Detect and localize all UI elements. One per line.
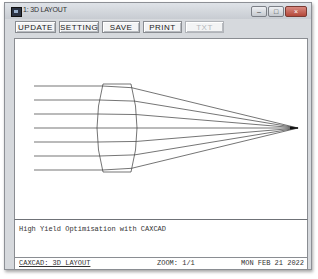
update-button[interactable]: UPDATE <box>15 21 56 33</box>
toolbar: UPDATE SETTING SAVE PRINT TXT <box>15 21 224 35</box>
status-zoom: ZOOM: 1/1 <box>157 258 195 269</box>
maximize-button[interactable]: □ <box>268 6 284 17</box>
layout-canvas[interactable] <box>14 38 308 220</box>
save-button[interactable]: SAVE <box>102 21 140 33</box>
status-view: CAXCAD: 3D LAYOUT <box>19 258 90 269</box>
close-icon: × <box>294 8 298 15</box>
print-button[interactable]: PRINT <box>143 21 182 33</box>
app-icon <box>11 7 22 17</box>
message-area: High Yield Optimisation with CAXCAD <box>14 219 308 258</box>
txt-button[interactable]: TXT <box>185 21 224 33</box>
close-button[interactable]: × <box>285 6 307 17</box>
app-window: 1: 3D LAYOUT – □ × UPDATE SETTING SAVE P… <box>4 2 312 270</box>
minimize-icon: – <box>257 8 261 15</box>
setting-button[interactable]: SETTING <box>59 21 99 33</box>
minimize-button[interactable]: – <box>251 6 267 17</box>
window-controls: – □ × <box>251 6 307 15</box>
status-bar: CAXCAD: 3D LAYOUT ZOOM: 1/1 MON FEB 21 2… <box>14 257 308 270</box>
maximize-icon: □ <box>274 8 278 15</box>
title-bar[interactable]: 1: 3D LAYOUT – □ × <box>5 3 311 19</box>
window-title: 1: 3D LAYOUT <box>23 6 67 13</box>
lens-ray-diagram <box>15 39 307 219</box>
status-date: MON FEB 21 2022 <box>241 258 304 269</box>
message-text: High Yield Optimisation with CAXCAD <box>19 225 166 233</box>
